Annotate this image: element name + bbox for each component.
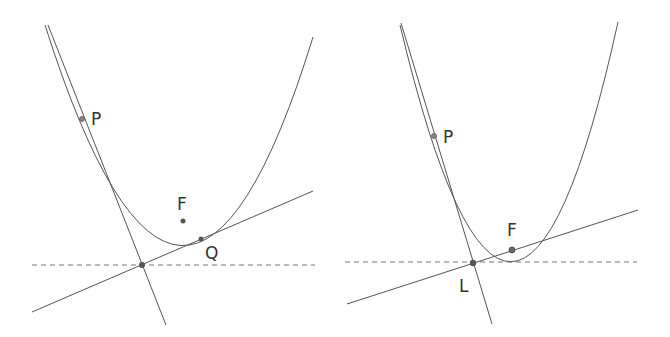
right-point-P [432, 134, 437, 139]
left-label-Q: Q [205, 243, 218, 263]
left-point-Q [199, 237, 204, 242]
right-label-F: F [507, 220, 517, 240]
right-point-F [509, 247, 515, 253]
left-point-P [80, 117, 85, 122]
left-label-F: F [177, 194, 187, 214]
left-point-intersection [139, 262, 145, 268]
parabola-diagram: P F Q P F L [0, 0, 670, 337]
right-line-through-F [347, 210, 638, 304]
left-panel: P F Q [32, 25, 315, 325]
left-label-P: P [91, 109, 101, 129]
right-panel: P F L [345, 22, 638, 324]
right-label-P: P [443, 127, 453, 147]
left-point-F [181, 219, 186, 224]
right-tangent-at-P [401, 23, 492, 324]
left-line-through-Q [32, 191, 313, 312]
right-label-L: L [459, 276, 469, 296]
right-point-L [470, 260, 476, 266]
